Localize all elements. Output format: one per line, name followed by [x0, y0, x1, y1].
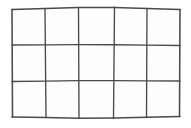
grid-line-v5-right-border: [180, 10, 181, 117]
grid-line-v4: [147, 9, 148, 118]
grid-line-v2: [79, 9, 80, 119]
grid-interior-fill: [12, 9, 180, 117]
drawing-canvas: [0, 0, 191, 128]
grid-line-v0-left-border: [12, 10, 13, 118]
hand-drawn-grid: [0, 0, 191, 128]
